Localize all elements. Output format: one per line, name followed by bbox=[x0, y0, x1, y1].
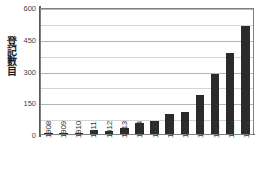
bar-slot bbox=[56, 9, 71, 134]
x-tick-label: 1908 bbox=[44, 121, 53, 138]
x-tick-label: 1917 bbox=[181, 121, 190, 138]
bar-slot bbox=[117, 9, 132, 134]
x-tick-slot: 1920 bbox=[223, 136, 238, 192]
x-tick-label: 1918 bbox=[196, 121, 205, 138]
y-axis-tick-labels: 600 450 300 150 0 bbox=[16, 0, 38, 194]
bar-slot bbox=[71, 9, 86, 134]
x-tick-slot: 1917 bbox=[178, 136, 193, 192]
y-tick-label: 600 bbox=[23, 4, 36, 13]
y-tick-label: 0 bbox=[32, 131, 36, 140]
bar-series bbox=[41, 9, 253, 134]
x-tick-label: 1911 bbox=[89, 122, 98, 138]
bar-slot bbox=[132, 9, 147, 134]
bar-slot bbox=[192, 9, 207, 134]
x-tick-label: 1921 bbox=[242, 121, 251, 138]
plot-area bbox=[40, 8, 254, 135]
x-tick-slot: 1911 bbox=[86, 136, 101, 192]
bar-slot bbox=[41, 9, 56, 134]
x-tick-slot: 1908 bbox=[40, 136, 55, 192]
y-tick-label: 150 bbox=[23, 99, 36, 108]
x-tick-slot: 1919 bbox=[208, 136, 223, 192]
x-tick-label: 1919 bbox=[212, 121, 221, 138]
x-axis-tick-labels: 1908190919101911191219131914191519161917… bbox=[40, 136, 254, 192]
x-tick-slot: 1918 bbox=[193, 136, 208, 192]
bar-slot bbox=[177, 9, 192, 134]
y-tick-label: 300 bbox=[23, 67, 36, 76]
bar[interactable] bbox=[241, 26, 249, 134]
x-tick-slot: 1912 bbox=[101, 136, 116, 192]
x-tick-label: 1912 bbox=[105, 121, 114, 138]
x-tick-slot: 1921 bbox=[239, 136, 254, 192]
bar-slot bbox=[86, 9, 101, 134]
bar-chart: 登記數目 600 450 300 150 0 19081909191019111… bbox=[0, 0, 258, 194]
x-tick-label: 1915 bbox=[151, 121, 160, 138]
x-tick-label: 1914 bbox=[135, 121, 144, 138]
bar-slot bbox=[102, 9, 117, 134]
bar-slot bbox=[208, 9, 223, 134]
x-tick-slot: 1914 bbox=[132, 136, 147, 192]
x-tick-label: 1913 bbox=[120, 121, 129, 138]
y-axis-title: 登記數目 bbox=[2, 36, 16, 76]
bar-slot bbox=[162, 9, 177, 134]
bar-slot bbox=[238, 9, 253, 134]
x-tick-slot: 1910 bbox=[71, 136, 86, 192]
bar-slot bbox=[223, 9, 238, 134]
x-tick-slot: 1915 bbox=[147, 136, 162, 192]
x-tick-slot: 1916 bbox=[162, 136, 177, 192]
y-tick-label: 450 bbox=[23, 35, 36, 44]
x-tick-label: 1920 bbox=[227, 121, 236, 138]
x-tick-label: 1916 bbox=[166, 121, 175, 138]
bar-slot bbox=[147, 9, 162, 134]
x-tick-label: 1909 bbox=[59, 121, 68, 138]
x-tick-slot: 1909 bbox=[55, 136, 70, 192]
x-tick-label: 1910 bbox=[74, 121, 83, 138]
x-tick-slot: 1913 bbox=[116, 136, 131, 192]
